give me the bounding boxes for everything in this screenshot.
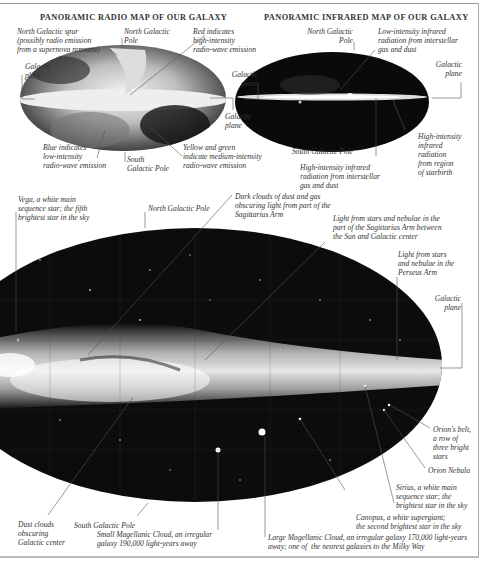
radio-galactic-plane-right-label: Galactic plane (225, 112, 251, 130)
optical-orion-nebula-label: Orion Nebula (428, 466, 470, 475)
radio-red-high-intensity-label: Red indicates high-intensity radio-wave … (193, 27, 256, 54)
optical-sirius-label: Sirius, a white main sequence star; the … (396, 483, 467, 510)
infrared-high-intensity-starbirth-label: High-intensity infrared radiation from r… (418, 132, 461, 177)
optical-orions-belt-label: Orion's belt, a row of three bright star… (433, 425, 471, 461)
radio-north-galactic-spur-label: North Galactic spur (possibly radio emis… (17, 27, 100, 54)
optical-sagittarius-arm-light-label: Light from stars and nebulae in the part… (333, 214, 442, 241)
infrared-north-galactic-pole-label: North Galactic Pole (305, 27, 353, 45)
optical-dark-clouds-sagittarius-label: Dark clouds of dust and gas obscuring li… (235, 192, 331, 219)
radio-blue-low-intensity-label: Blue indicates low-intensity radio-wave … (43, 143, 106, 170)
radio-map (18, 44, 228, 154)
infrared-map (230, 50, 435, 155)
optical-north-galactic-pole-label: North Galactic Pole (148, 204, 210, 213)
radio-north-galactic-pole-label: North Galactic Pole (124, 27, 170, 45)
infrared-low-intensity-label: Low-intensity infrared radiation from in… (378, 27, 458, 54)
optical-vega-label: Vega, a white main sequence star; the fi… (18, 195, 89, 222)
radio-south-galactic-pole-label: South Galactic Pole (127, 155, 169, 173)
optical-map (0, 225, 450, 505)
optical-large-magellanic-label: Large Magellanic Cloud, an irregular gal… (268, 533, 467, 551)
radio-yellow-green-medium-label: Yellow and green indicate medium-intensi… (183, 143, 262, 170)
radio-galactic-plane-left-label: Galactic plane (25, 62, 51, 80)
optical-canopus-label: Canopus, a white supergiant; the second … (356, 513, 461, 531)
infrared-high-intensity-gas-dust-label: High-intensity infrared radiation from i… (300, 163, 380, 190)
optical-south-galactic-pole-label: South Galactic Pole (74, 521, 135, 530)
infrared-galactic-plane-left-label: Galactic plane (220, 70, 258, 88)
radio-map-title: PANORAMIC RADIO MAP OF OUR GALAXY (40, 13, 227, 22)
optical-small-magellanic-label: Small Magellanic Cloud, an irregular gal… (97, 530, 212, 548)
infrared-map-title: PANORAMIC INFRARED MAP OF OUR GALAXY (264, 13, 469, 22)
optical-galactic-plane-label: Galactic plane (420, 294, 461, 312)
optical-perseus-arm-label: Light from stars and nebulae in the Pers… (398, 250, 454, 277)
infrared-south-galactic-pole-label: South Galactic Pole (292, 147, 353, 156)
optical-dust-clouds-center-label: Dust clouds obscuring Galactic center (18, 520, 65, 547)
infrared-galactic-plane-right-label: Galactic plane (420, 60, 462, 78)
